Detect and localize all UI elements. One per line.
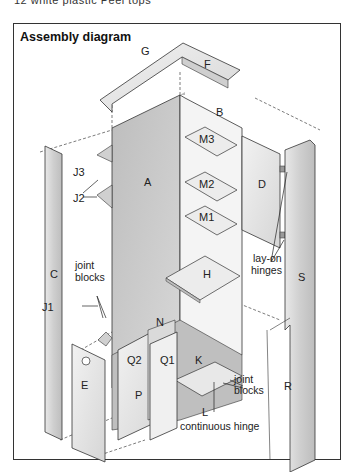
label-J1: J1: [42, 301, 54, 313]
note-lay-on-hinges-1: lay-on: [253, 252, 282, 264]
label-D: D: [258, 178, 266, 190]
part-E: [72, 344, 105, 462]
part-D: [242, 136, 285, 248]
label-M3: M3: [199, 133, 214, 145]
label-J3: J3: [73, 166, 85, 178]
label-Q2: Q2: [127, 354, 142, 366]
label-K: K: [195, 354, 203, 366]
label-R: R: [284, 380, 292, 392]
label-N: N: [156, 316, 164, 328]
note-lay-on-hinges-2: hinges: [251, 264, 282, 276]
note-continuous-hinge: continuous hinge: [180, 420, 260, 432]
note-joint-blocks-left-2: blocks: [75, 271, 105, 283]
label-Q1: Q1: [160, 354, 175, 366]
label-L: L: [202, 406, 208, 418]
assembly-diagram: G F B M3 M2 M1 A J3 J2 C D H S R N Q2 Q1…: [0, 0, 349, 472]
label-G: G: [141, 45, 150, 57]
label-F: F: [204, 58, 211, 70]
label-B: B: [216, 106, 223, 118]
label-M1: M1: [199, 211, 214, 223]
note-joint-blocks-right-2: blocks: [234, 384, 264, 396]
label-H: H: [203, 268, 211, 280]
label-J2: J2: [73, 192, 85, 204]
label-M2: M2: [199, 178, 214, 190]
label-C: C: [50, 268, 58, 280]
label-S: S: [298, 271, 305, 283]
note-joint-blocks-left-1: joint: [74, 259, 94, 271]
label-P: P: [135, 389, 142, 401]
label-A: A: [144, 176, 152, 188]
label-E: E: [81, 379, 88, 391]
joint-blocks-J: [97, 145, 112, 346]
part-C: [45, 146, 62, 440]
